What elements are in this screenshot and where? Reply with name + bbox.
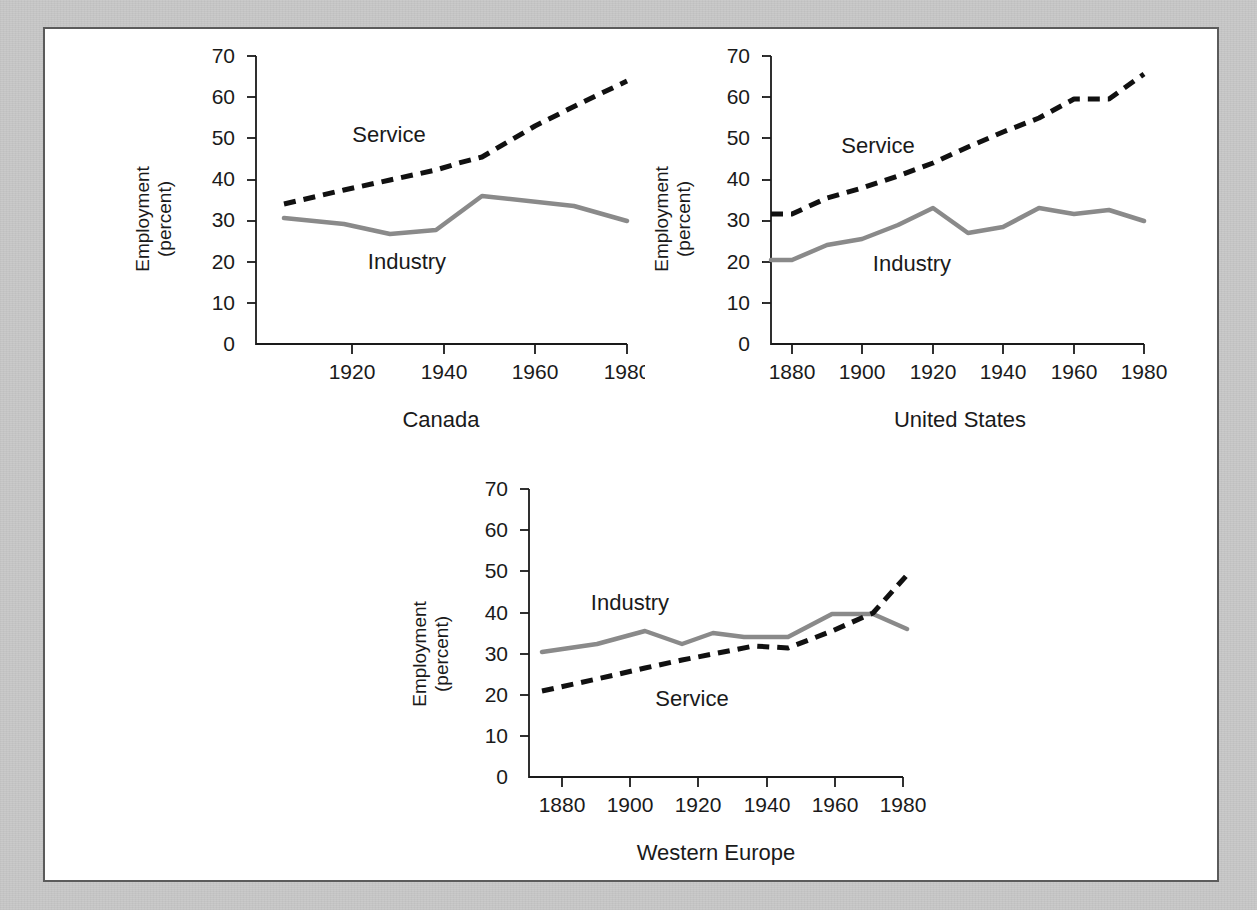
chart-panel-canada: Employment (percent) 70 60 50 40 30 20 1… (125, 29, 645, 429)
canada-ylabel-line2: (percent) (154, 181, 175, 257)
canada-ytick-10: 10 (212, 291, 235, 314)
us-y-tick-labels: 70 60 50 40 30 20 10 0 (727, 44, 750, 355)
us-xtick-1920: 1920 (910, 360, 957, 383)
us-axis-lines (762, 56, 1144, 354)
us-ylabel-line1: Employment (651, 165, 672, 271)
canada-service-line (284, 81, 627, 204)
we-xtick-1920: 1920 (675, 793, 722, 816)
us-annotation-industry: Industry (873, 251, 951, 276)
canada-chart-svg: Employment (percent) 70 60 50 40 30 20 1… (125, 29, 645, 429)
us-industry-line (771, 208, 1144, 260)
canada-xtick-1920: 1920 (329, 360, 376, 383)
canada-ytick-60: 60 (212, 85, 235, 108)
figure-plate: Employment (percent) 70 60 50 40 30 20 1… (43, 27, 1219, 882)
us-ytick-10: 10 (727, 291, 750, 314)
we-xtick-1940: 1940 (744, 793, 791, 816)
canada-annotation-service: Service (352, 122, 425, 147)
we-x-tick-labels: 1880 1900 1920 1940 1960 1980 (539, 793, 927, 816)
we-axis-lines (520, 489, 903, 787)
us-xtick-1900: 1900 (839, 360, 886, 383)
we-ytick-50: 50 (485, 559, 508, 582)
we-ytick-20: 20 (485, 683, 508, 706)
canada-ytick-50: 50 (212, 126, 235, 149)
us-xtick-1880: 1880 (769, 360, 816, 383)
canada-industry-line (284, 196, 627, 234)
us-y-axis-label: Employment (percent) (651, 165, 694, 271)
us-ytick-60: 60 (727, 85, 750, 108)
us-chart-svg: Employment (percent) 70 60 50 40 30 20 1… (650, 29, 1210, 429)
we-y-tick-labels: 70 60 50 40 30 20 10 0 (485, 477, 508, 788)
us-annotation-service: Service (841, 133, 914, 158)
we-ytick-30: 30 (485, 642, 508, 665)
us-service-line (771, 74, 1144, 214)
canada-ytick-0: 0 (223, 332, 235, 355)
we-ylabel-line1: Employment (409, 600, 430, 706)
canada-xtick-1940: 1940 (421, 360, 468, 383)
us-ylabel-line2: (percent) (673, 181, 694, 257)
canada-ytick-40: 40 (212, 167, 235, 190)
canada-ytick-20: 20 (212, 250, 235, 273)
we-y-axis-label: Employment (percent) (409, 600, 452, 706)
we-panel-caption: Western Europe (637, 840, 796, 865)
us-x-tick-labels: 1880 1900 1920 1940 1960 1980 (769, 360, 1168, 383)
us-ytick-0: 0 (738, 332, 750, 355)
we-ytick-40: 40 (485, 601, 508, 624)
we-ytick-70: 70 (485, 477, 508, 500)
us-xtick-1980: 1980 (1121, 360, 1168, 383)
we-xtick-1900: 1900 (607, 793, 654, 816)
we-xtick-1980: 1980 (880, 793, 927, 816)
us-ytick-30: 30 (727, 208, 750, 231)
canada-panel-caption: Canada (402, 407, 480, 429)
canada-x-tick-labels: 1920 1940 1960 1980 (329, 360, 645, 383)
we-annotation-industry: Industry (591, 590, 669, 615)
we-ylabel-line2: (percent) (431, 616, 452, 692)
we-annotation-service: Service (655, 686, 728, 711)
canada-xtick-1960: 1960 (512, 360, 559, 383)
canada-ylabel-line1: Employment (132, 165, 153, 271)
canada-y-axis-label: Employment (percent) (132, 165, 175, 271)
us-xtick-1960: 1960 (1051, 360, 1098, 383)
figure-root: Employment (percent) 70 60 50 40 30 20 1… (0, 0, 1257, 910)
chart-panel-western-europe: Employment (percent) 70 60 50 40 30 20 1… (390, 454, 970, 874)
canada-y-tick-labels: 70 60 50 40 30 20 10 0 (212, 44, 235, 355)
we-ytick-10: 10 (485, 724, 508, 747)
us-panel-caption: United States (894, 407, 1026, 429)
chart-panel-united-states: Employment (percent) 70 60 50 40 30 20 1… (650, 29, 1210, 429)
we-ytick-0: 0 (496, 765, 508, 788)
we-ytick-60: 60 (485, 518, 508, 541)
canada-ytick-70: 70 (212, 44, 235, 67)
us-xtick-1940: 1940 (980, 360, 1027, 383)
canada-ytick-30: 30 (212, 208, 235, 231)
canada-xtick-1980: 1980 (604, 360, 645, 383)
we-chart-svg: Employment (percent) 70 60 50 40 30 20 1… (390, 454, 970, 874)
we-xtick-1880: 1880 (539, 793, 586, 816)
us-ytick-50: 50 (727, 126, 750, 149)
us-ytick-20: 20 (727, 250, 750, 273)
us-ytick-70: 70 (727, 44, 750, 67)
canada-annotation-industry: Industry (368, 249, 446, 274)
we-xtick-1960: 1960 (812, 793, 859, 816)
us-ytick-40: 40 (727, 167, 750, 190)
